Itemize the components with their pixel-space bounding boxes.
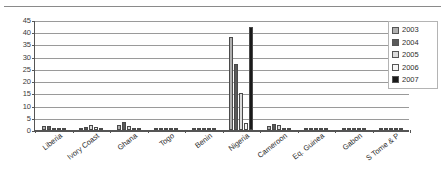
x-axis-tick-label: Liberia bbox=[41, 132, 63, 152]
x-axis-tick-mark bbox=[410, 130, 411, 133]
chart-legend: 20032004200520062007 bbox=[388, 21, 438, 89]
x-axis-tick-label: Ghana bbox=[116, 132, 138, 152]
bar[interactable] bbox=[62, 128, 66, 130]
bar[interactable] bbox=[164, 128, 168, 130]
legend-item[interactable]: 2007 bbox=[392, 74, 435, 86]
bar[interactable] bbox=[122, 122, 126, 130]
legend-swatch-icon bbox=[392, 51, 399, 58]
legend-label: 2007 bbox=[402, 76, 419, 84]
bar[interactable] bbox=[212, 128, 216, 130]
bar[interactable] bbox=[319, 128, 323, 130]
bar[interactable] bbox=[197, 128, 201, 130]
x-axis-tick-label: S Tome & P bbox=[365, 132, 401, 162]
bar-cluster bbox=[298, 21, 336, 130]
bar[interactable] bbox=[42, 126, 46, 130]
bar[interactable] bbox=[137, 128, 141, 130]
x-axis-tick-label: Cameroon bbox=[256, 132, 288, 159]
bar[interactable] bbox=[342, 128, 346, 130]
legend-label: 2004 bbox=[402, 39, 419, 47]
legend-swatch-icon bbox=[392, 64, 399, 71]
header-divider bbox=[4, 6, 441, 7]
y-axis-tick-label: 45 bbox=[23, 17, 31, 25]
bar[interactable] bbox=[399, 128, 403, 130]
bar[interactable] bbox=[267, 126, 271, 130]
bar[interactable] bbox=[174, 128, 178, 130]
bar[interactable] bbox=[159, 128, 163, 130]
bar-chart: 051015202530354045 LiberiaIvory CoastGha… bbox=[0, 0, 445, 183]
bar[interactable] bbox=[234, 64, 238, 130]
bar[interactable] bbox=[99, 128, 103, 130]
plot-area: 051015202530354045 bbox=[34, 21, 409, 131]
legend-item[interactable]: 2003 bbox=[392, 24, 435, 36]
y-axis-tick-label: 40 bbox=[23, 29, 31, 37]
bar[interactable] bbox=[47, 126, 51, 130]
bar[interactable] bbox=[154, 128, 158, 130]
bar[interactable] bbox=[304, 128, 308, 130]
y-axis-tick-label: 15 bbox=[23, 91, 31, 99]
y-axis-tick-label: 35 bbox=[23, 42, 31, 50]
bar[interactable] bbox=[207, 128, 211, 130]
bar[interactable] bbox=[282, 128, 286, 130]
legend-item[interactable]: 2004 bbox=[392, 36, 435, 48]
legend-item[interactable]: 2005 bbox=[392, 49, 435, 61]
legend-swatch-icon bbox=[392, 27, 399, 34]
bar-cluster bbox=[110, 21, 148, 130]
bar[interactable] bbox=[277, 125, 281, 130]
bar[interactable] bbox=[314, 128, 318, 130]
x-axis-tick-label: Gabon bbox=[341, 132, 363, 152]
bar-cluster bbox=[223, 21, 261, 130]
bar[interactable] bbox=[394, 128, 398, 130]
bar[interactable] bbox=[52, 128, 56, 130]
legend-label: 2003 bbox=[402, 26, 419, 34]
bar[interactable] bbox=[202, 128, 206, 130]
legend-item[interactable]: 2006 bbox=[392, 61, 435, 73]
bar[interactable] bbox=[192, 128, 196, 130]
bar-cluster bbox=[73, 21, 111, 130]
y-axis-tick-label: 5 bbox=[27, 115, 31, 123]
bar[interactable] bbox=[389, 128, 393, 130]
x-axis-tick-label: Togo bbox=[158, 132, 175, 148]
y-axis-tick-label: 20 bbox=[23, 78, 31, 86]
bar[interactable] bbox=[169, 128, 173, 130]
bar[interactable] bbox=[239, 93, 243, 130]
bar[interactable] bbox=[249, 27, 253, 130]
x-axis-tick-label: Eq. Guinea bbox=[292, 132, 326, 161]
bar[interactable] bbox=[347, 128, 351, 130]
bar[interactable] bbox=[94, 127, 98, 130]
bar-cluster bbox=[185, 21, 223, 130]
x-axis-labels: LiberiaIvory CoastGhanaTogoBeninNigeriaC… bbox=[34, 132, 409, 182]
bars-layer bbox=[35, 21, 409, 130]
bar-cluster bbox=[260, 21, 298, 130]
bar[interactable] bbox=[362, 128, 366, 130]
legend-label: 2006 bbox=[402, 64, 419, 72]
bar[interactable] bbox=[84, 127, 88, 130]
bar[interactable] bbox=[229, 37, 233, 130]
legend-swatch-icon bbox=[392, 76, 399, 83]
bar-cluster bbox=[148, 21, 186, 130]
y-axis-tick-label: 30 bbox=[23, 54, 31, 62]
bar[interactable] bbox=[379, 128, 383, 130]
bar[interactable] bbox=[287, 128, 291, 130]
bar[interactable] bbox=[57, 128, 61, 130]
y-axis-tick-label: 0 bbox=[27, 127, 31, 135]
bar[interactable] bbox=[357, 128, 361, 130]
x-axis-tick-label: Benin bbox=[194, 132, 214, 150]
bar[interactable] bbox=[89, 125, 93, 130]
y-axis-tick-label: 25 bbox=[23, 66, 31, 74]
bar-cluster bbox=[35, 21, 73, 130]
bar[interactable] bbox=[127, 126, 131, 130]
y-axis-tick-label: 10 bbox=[23, 103, 31, 111]
bar-cluster bbox=[335, 21, 373, 130]
bar[interactable] bbox=[244, 123, 248, 130]
legend-label: 2005 bbox=[402, 51, 419, 59]
legend-swatch-icon bbox=[392, 39, 399, 46]
bar[interactable] bbox=[309, 128, 313, 130]
bar[interactable] bbox=[384, 128, 388, 130]
bar[interactable] bbox=[79, 128, 83, 130]
bar[interactable] bbox=[272, 124, 276, 130]
bar[interactable] bbox=[324, 128, 328, 130]
x-axis-tick-label: Ivory Coast bbox=[66, 132, 101, 161]
bar[interactable] bbox=[117, 125, 121, 130]
bar[interactable] bbox=[352, 128, 356, 130]
bar[interactable] bbox=[132, 128, 136, 130]
